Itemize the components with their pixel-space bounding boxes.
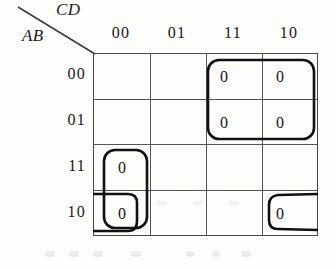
column-header-3: 10 [261,24,317,42]
grid-hline-1 [94,99,317,100]
column-variable-label: CD [56,0,80,20]
row-header-2: 11 [38,157,86,175]
kmap-cell-r3c0: 0 [112,206,132,222]
column-header-2: 11 [205,24,261,42]
scan-bleed-artifact [40,246,290,262]
row-header-1: 01 [38,111,86,129]
grid-hline-2 [94,144,317,145]
karnaugh-map-figure: CD AB 00 01 11 10 00 01 11 10 0 0 0 0 0 … [0,0,336,269]
kmap-cell-r0c2: 0 [214,69,234,85]
kmap-cell-r0c3: 0 [270,69,290,85]
kmap-cell-r1c3: 0 [270,115,290,131]
row-header-0: 00 [38,65,86,83]
kmap-cell-r3c3: 0 [270,206,290,222]
grid-hline-3 [94,190,317,191]
scan-bleed-artifact-secondary [150,196,260,210]
kmap-cell-r1c2: 0 [214,115,234,131]
row-variable-label: AB [22,26,43,46]
column-header-0: 00 [93,24,149,42]
kmap-cell-r2c0: 0 [112,160,132,176]
column-header-1: 01 [149,24,205,42]
row-header-3: 10 [38,203,86,221]
